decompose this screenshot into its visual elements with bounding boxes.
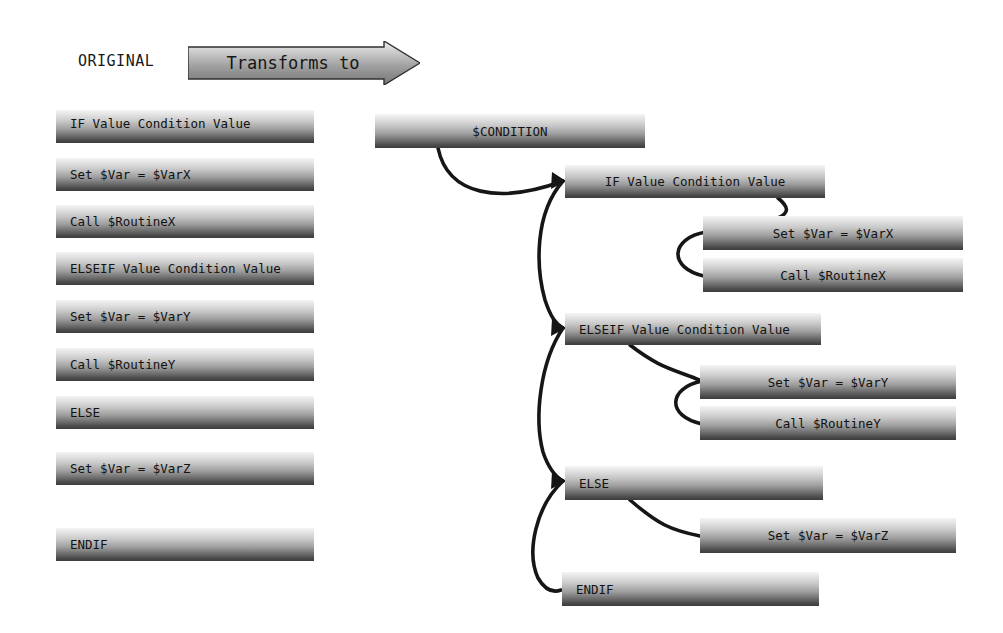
transformed-branch-else[interactable]: ELSE: [565, 466, 823, 500]
transformed-child-set-z[interactable]: Set $Var = $VarZ: [700, 518, 956, 553]
statement-label: IF Value Condition Value: [56, 110, 251, 131]
original-statement-if[interactable]: IF Value Condition Value: [56, 110, 314, 143]
transformed-branch-if[interactable]: IF Value Condition Value: [565, 165, 825, 198]
original-statement-elseif[interactable]: ELSEIF Value Condition Value: [56, 252, 314, 285]
wire-elseif-to-else: [539, 328, 563, 481]
diagram-canvas: ORIGINAL Transforms to: [0, 0, 1003, 633]
transforms-to-arrow-icon: [188, 41, 420, 85]
statement-label: ENDIF: [562, 582, 614, 597]
original-column-title: ORIGINAL: [78, 52, 154, 70]
transformed-branch-endif[interactable]: ENDIF: [562, 572, 819, 606]
wire-sety-to-cally: [676, 381, 702, 424]
original-statement-set-y[interactable]: Set $Var = $VarY: [56, 300, 314, 333]
wire-setx-to-callx: [678, 232, 706, 276]
original-statement-set-z[interactable]: Set $Var = $VarZ: [56, 452, 314, 485]
transformed-root-condition[interactable]: $CONDITION: [375, 114, 645, 148]
transformed-child-call-y[interactable]: Call $RoutineY: [700, 406, 956, 440]
statement-label: Set $Var = $VarY: [758, 375, 898, 390]
original-statement-call-y[interactable]: Call $RoutineY: [56, 348, 314, 381]
statement-label: ELSE: [56, 405, 100, 420]
statement-label: Call $RoutineX: [56, 214, 175, 229]
transformed-child-set-y[interactable]: Set $Var = $VarY: [700, 365, 956, 399]
original-statement-endif[interactable]: ENDIF: [56, 528, 314, 561]
transformed-child-call-x[interactable]: Call $RoutineX: [703, 258, 963, 292]
statement-label: ELSEIF Value Condition Value: [565, 322, 790, 337]
wire-else-to-setz: [630, 500, 700, 536]
original-statement-call-x[interactable]: Call $RoutineX: [56, 205, 314, 238]
wire-if-to-elseif: [539, 181, 563, 328]
statement-label: Set $Var = $VarZ: [758, 528, 898, 543]
transformed-branch-elseif[interactable]: ELSEIF Value Condition Value: [565, 313, 821, 345]
statement-label: Set $Var = $VarZ: [56, 461, 190, 476]
wire-arrowhead-elseif: [551, 319, 566, 336]
transformed-child-set-x[interactable]: Set $Var = $VarX: [703, 216, 963, 250]
statement-label: ELSE: [565, 476, 609, 491]
wire-arrowhead-if: [551, 172, 566, 189]
statement-label: IF Value Condition Value: [595, 174, 796, 189]
statement-label: Call $RoutineY: [765, 416, 890, 431]
original-statement-else[interactable]: ELSE: [56, 396, 314, 429]
statement-label: ELSEIF Value Condition Value: [56, 261, 281, 276]
wire-condition-to-if: [438, 148, 563, 193]
original-statement-set-x[interactable]: Set $Var = $VarX: [56, 158, 314, 191]
wire-elseif-to-sety: [630, 345, 702, 381]
statement-label: Call $RoutineX: [770, 268, 895, 283]
statement-label: $CONDITION: [462, 124, 557, 139]
statement-label: Call $RoutineY: [56, 357, 175, 372]
statement-label: Set $Var = $VarY: [56, 309, 190, 324]
wire-else-to-endif: [533, 481, 563, 591]
wire-arrowhead-else: [551, 472, 566, 489]
statement-label: ENDIF: [56, 537, 108, 552]
statement-label: Set $Var = $VarX: [56, 167, 190, 182]
statement-label: Set $Var = $VarX: [763, 226, 903, 241]
